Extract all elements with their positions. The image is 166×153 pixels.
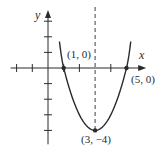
point-label-3-neg4: (3, −4): [81, 133, 111, 146]
key-point: [124, 66, 128, 70]
x-axis-arrow-icon: [138, 65, 146, 71]
parabola-chart: x y (1, 0) (5, 0) (3, −4): [0, 0, 166, 153]
y-axis-label: y: [34, 8, 41, 22]
axes: [11, 10, 147, 144]
point-label-1-0: (1, 0): [67, 48, 91, 61]
key-point: [93, 128, 97, 132]
key-point: [62, 66, 66, 70]
y-axis-arrow-icon: [45, 10, 51, 18]
x-axis-label: x: [138, 48, 145, 62]
point-label-5-0: (5, 0): [131, 73, 155, 86]
